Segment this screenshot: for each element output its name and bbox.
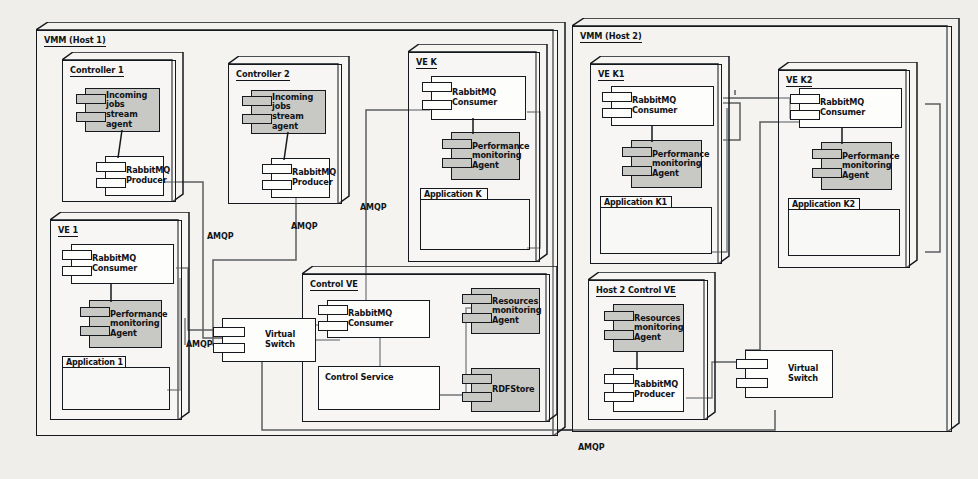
component-lug-bottom xyxy=(462,313,492,323)
component-control-service[interactable]: Control Service xyxy=(318,366,440,410)
node-label: Control VE xyxy=(310,279,358,291)
component-lug-top xyxy=(318,305,348,315)
switch-lug-bottom xyxy=(213,343,245,353)
node-label: Controller 2 xyxy=(236,69,290,81)
component-lug-top xyxy=(242,96,272,106)
component-performance-agent-vek[interactable]: Performance monitoring Agent xyxy=(442,132,520,180)
edge-consumer-agent-vek2 xyxy=(835,128,849,144)
component-label: Control Service xyxy=(319,373,393,383)
component-lug-top xyxy=(442,139,472,149)
host-label: VMM (Host 1) xyxy=(44,35,106,47)
component-rabbitmq-consumer-vek[interactable]: RabbitMQ Consumer xyxy=(422,76,526,120)
edge-agent-to-producer-1 xyxy=(110,130,130,158)
component-lug-bottom xyxy=(790,110,820,120)
switch-lug-top xyxy=(213,327,245,337)
component-lug-top xyxy=(462,294,492,304)
component-rabbitmq-producer-2[interactable]: RabbitMQ Producer xyxy=(262,158,330,198)
node-label: Controller 1 xyxy=(70,65,124,77)
switch-lug-top xyxy=(736,359,768,369)
component-lug-top xyxy=(604,374,634,384)
component-virtual-switch-host1[interactable]: Virtual Switch xyxy=(222,318,316,362)
component-performance-agent-ve1[interactable]: Performance monitoring Agent xyxy=(80,300,162,348)
component-rabbitmq-consumer-vek1[interactable]: RabbitMQ Consumer xyxy=(602,86,714,126)
component-lug-top xyxy=(622,147,652,157)
edge-consumer-agent-vek xyxy=(466,118,480,134)
component-incoming-jobs-agent-2[interactable]: Incoming jobs stream agent xyxy=(242,90,326,134)
node-label: VE K2 xyxy=(786,75,812,87)
edge-label-amqp-controller2: AMQP xyxy=(291,222,317,231)
package-frame xyxy=(62,367,170,410)
component-lug-bottom xyxy=(622,166,652,176)
component-lug-top xyxy=(262,164,292,174)
diagram-canvas: VMM (Host 1) Controller 1 Incoming jobs … xyxy=(0,0,978,479)
edge-agent-to-producer-2 xyxy=(276,132,296,160)
edge-label-amqp-vek: AMQP xyxy=(360,203,386,212)
edge-label-amqp-ve1: AMQP xyxy=(186,340,212,349)
component-lug-top xyxy=(604,311,634,321)
component-lug-top xyxy=(422,82,452,92)
component-performance-agent-vek1[interactable]: Performance monitoring Agent xyxy=(622,140,702,188)
component-lug-bottom xyxy=(262,180,292,190)
component-lug-bottom xyxy=(604,392,634,402)
package-application-k1[interactable]: Application K1 xyxy=(600,196,712,254)
component-lug-bottom xyxy=(96,178,126,188)
package-label: Application K xyxy=(424,190,481,199)
package-frame xyxy=(420,199,530,250)
component-rdfstore[interactable]: RDFStore xyxy=(462,368,540,412)
edge-consumer-agent-vek1 xyxy=(645,126,659,142)
edge-label-amqp-interhost: AMQP xyxy=(578,443,604,452)
component-lug-bottom xyxy=(318,321,348,331)
package-frame xyxy=(600,207,712,254)
component-lug-bottom xyxy=(442,158,472,168)
component-performance-agent-vek2[interactable]: Performance monitoring Agent xyxy=(812,142,892,190)
component-lug-bottom xyxy=(604,330,634,340)
component-lug-bottom xyxy=(812,168,842,178)
component-lug-bottom xyxy=(80,326,110,336)
component-lug-top xyxy=(790,94,820,104)
component-lug-bottom xyxy=(62,266,92,276)
package-label: Application K2 xyxy=(792,200,855,209)
component-rabbitmq-producer-host2[interactable]: RabbitMQ Producer xyxy=(604,368,684,412)
component-lug-top xyxy=(602,92,632,102)
edge-consumer-agent-ve1 xyxy=(104,284,118,302)
component-lug-bottom xyxy=(602,108,632,118)
component-rabbitmq-producer-1[interactable]: RabbitMQ Producer xyxy=(96,156,164,196)
node-label: VE K1 xyxy=(598,69,624,81)
component-lug-top xyxy=(812,149,842,159)
component-incoming-jobs-agent-1[interactable]: Incoming jobs stream agent xyxy=(76,88,160,132)
component-lug-top xyxy=(462,374,492,384)
package-application-k2[interactable]: Application K2 xyxy=(788,198,900,256)
component-lug-top xyxy=(96,162,126,172)
component-lug-top xyxy=(62,250,92,260)
component-lug-bottom xyxy=(242,114,272,124)
node-label: Host 2 Control VE xyxy=(596,285,676,297)
edge-resources-producer-host2 xyxy=(630,352,644,370)
component-lug-bottom xyxy=(76,112,106,122)
component-rabbitmq-consumer-ve1[interactable]: RabbitMQ Consumer xyxy=(62,244,174,284)
component-resources-agent-controlve[interactable]: Resources monitoring Agent xyxy=(462,288,540,334)
component-lug-bottom xyxy=(462,392,492,402)
host-label: VMM (Host 2) xyxy=(580,31,642,43)
component-lug-bottom xyxy=(422,100,452,110)
node-label: VE K xyxy=(416,57,437,69)
component-lug-top xyxy=(76,94,106,104)
package-frame xyxy=(788,209,900,256)
package-application-1[interactable]: Application 1 xyxy=(62,356,170,410)
switch-lug-bottom xyxy=(736,378,768,388)
edge-label-amqp-controller1: AMQP xyxy=(207,232,233,241)
component-rabbitmq-consumer-controlve[interactable]: RabbitMQ Consumer xyxy=(318,300,430,338)
package-label: Application 1 xyxy=(66,358,123,367)
package-application-k[interactable]: Application K xyxy=(420,188,530,250)
component-lug-top xyxy=(80,307,110,317)
node-label: VE 1 xyxy=(58,225,78,237)
component-virtual-switch-host2[interactable]: Virtual Switch xyxy=(745,350,833,398)
component-resources-agent-host2[interactable]: Resources monitoring Agent xyxy=(604,304,684,352)
component-rabbitmq-consumer-vek2[interactable]: RabbitMQ Consumer xyxy=(790,88,902,128)
package-label: Application K1 xyxy=(604,198,667,207)
